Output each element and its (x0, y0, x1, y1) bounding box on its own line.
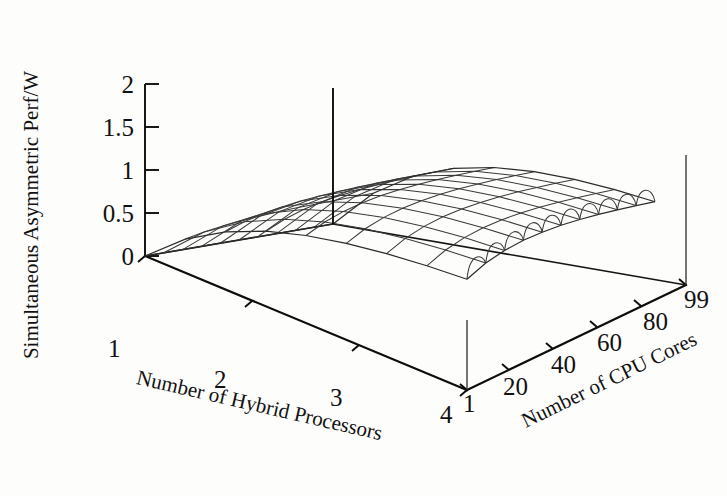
z-axis (145, 84, 159, 256)
y-axis-ticks (138, 256, 467, 396)
x-tick-label-60: 60 (597, 329, 622, 356)
surface-mesh (145, 168, 655, 280)
mesh-line (346, 172, 534, 244)
y-tick-2 (245, 301, 252, 307)
base-edge-front-right (467, 285, 686, 390)
mesh-line (314, 171, 636, 227)
x-tick-label-99: 99 (684, 286, 709, 313)
x-tick-40 (546, 343, 553, 349)
x-tick-label-20: 20 (503, 373, 528, 400)
mesh-line (201, 202, 523, 247)
plot-canvas: 2 1.5 1 0.5 0 1 2 3 4 1 20 40 60 80 99 (0, 0, 727, 496)
y-axis-title: Number of Hybrid Processors (134, 365, 384, 445)
z-tick-label-0p5: 0.5 (103, 200, 134, 227)
surface-ripples (467, 190, 655, 279)
mesh-line (295, 175, 617, 230)
surface-plot-figure: 2 1.5 1 0.5 0 1 2 3 4 1 20 40 60 80 99 (0, 0, 727, 496)
surface-drop-lines (333, 88, 686, 390)
y-tick-label-4: 4 (440, 401, 453, 428)
x-tick-label-40: 40 (551, 351, 576, 378)
y-tick-3 (352, 345, 359, 351)
x-tick-label-1: 1 (463, 390, 476, 417)
x-tick-60 (590, 321, 597, 327)
base-edge-left-front (145, 256, 467, 390)
y-tick-label-1: 1 (108, 335, 121, 362)
x-tick-20 (502, 364, 509, 370)
z-tick-label-1p5: 1.5 (103, 114, 134, 141)
z-tick-label-0: 0 (122, 243, 135, 270)
x-tick-label-80: 80 (643, 308, 668, 335)
base-edge-back-right (333, 224, 686, 285)
surface-ripple (505, 232, 524, 251)
z-tick-label-2: 2 (122, 71, 135, 98)
z-tick-label-1: 1 (122, 157, 135, 184)
z-axis-title: Simultaneous Asymmetric Perf/W (19, 71, 43, 359)
y-tick-1 (138, 256, 145, 262)
x-tick-80 (634, 300, 641, 306)
surface-ripple (542, 215, 561, 232)
y-tick-label-3: 3 (330, 384, 343, 411)
